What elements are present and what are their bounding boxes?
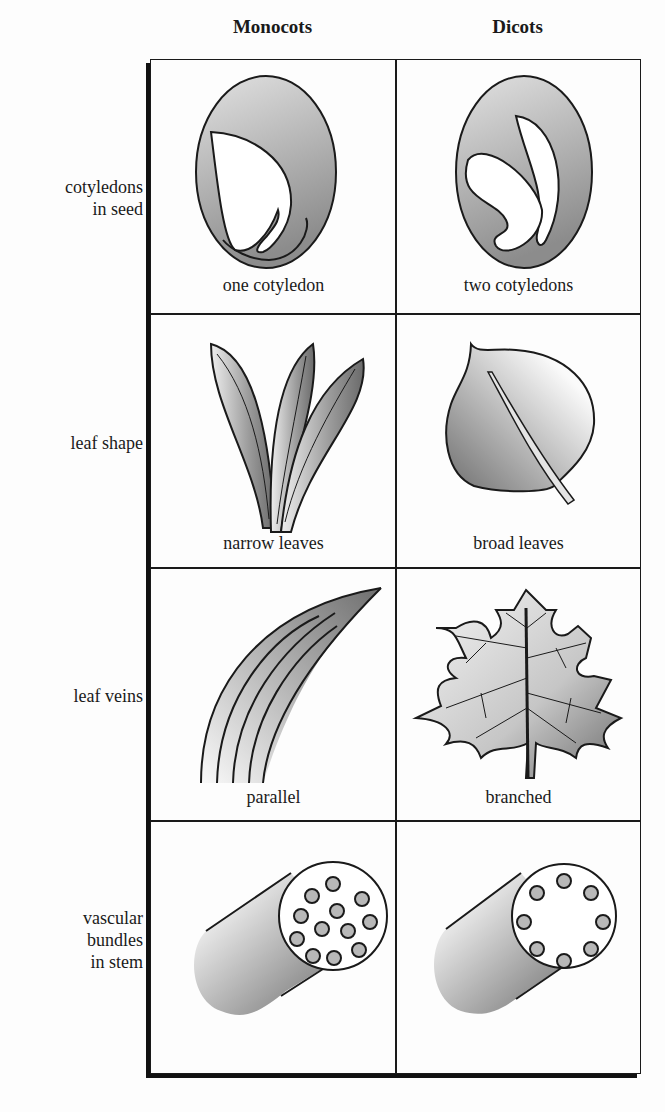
row-label-vascular: vascular bundles in stem xyxy=(83,907,143,973)
cell-dicot-stem xyxy=(396,821,641,1074)
dicot-stem-icon xyxy=(396,821,641,1074)
cell-two-cotyledons: two cotyledons xyxy=(396,60,641,313)
cell-narrow-leaves: narrow leaves xyxy=(151,314,396,567)
row-label-line: leaf shape xyxy=(71,432,143,454)
row-label-line: cotyledons xyxy=(65,176,143,198)
row-label-line: in stem xyxy=(83,951,143,973)
row-label-line: bundles xyxy=(83,929,143,951)
cell-one-cotyledon: one cotyledon xyxy=(151,60,396,313)
column-header-monocots: Monocots xyxy=(150,16,395,38)
caption-parallel: parallel xyxy=(151,787,396,808)
row-label-leaf-veins: leaf veins xyxy=(74,685,143,707)
caption-one-cotyledon: one cotyledon xyxy=(151,275,396,296)
row-label-line: vascular xyxy=(83,907,143,929)
row-label-line: leaf veins xyxy=(74,685,143,707)
maple-leaf-icon xyxy=(396,568,641,821)
caption-branched: branched xyxy=(396,787,641,808)
caption-narrow-leaves: narrow leaves xyxy=(151,533,396,554)
monocot-stem-icon xyxy=(151,821,396,1074)
cell-monocot-stem xyxy=(151,821,396,1074)
row-label-leaf-shape: leaf shape xyxy=(71,432,143,454)
caption-two-cotyledons: two cotyledons xyxy=(396,275,641,296)
cell-broad-leaves: broad leaves xyxy=(396,314,641,567)
column-header-dicots: Dicots xyxy=(395,16,640,38)
comparison-grid: one cotyledon two cotyledons narrow leav… xyxy=(150,59,641,1074)
row-label-cotyledons: cotyledons in seed xyxy=(65,176,143,220)
caption-broad-leaves: broad leaves xyxy=(396,533,641,554)
row-label-line: in seed xyxy=(65,198,143,220)
parallel-veins-icon xyxy=(151,568,396,821)
cell-parallel-veins: parallel xyxy=(151,568,396,821)
broad-leaf-icon xyxy=(396,314,641,567)
cell-branched-veins: branched xyxy=(396,568,641,821)
narrow-leaves-icon xyxy=(151,314,396,567)
